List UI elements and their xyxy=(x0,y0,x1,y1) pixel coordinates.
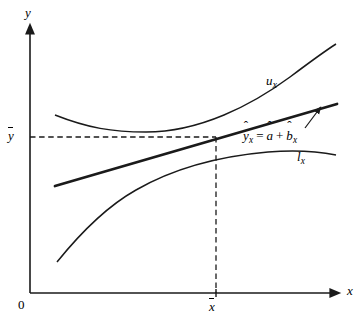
lower-curve-label: lx xyxy=(297,150,305,166)
figure-canvas xyxy=(0,0,362,321)
y-axis-label: y xyxy=(25,6,31,19)
ahat-glyph: a xyxy=(266,129,273,142)
equals-sign: = xyxy=(256,128,263,143)
lower-curve-subscript: x xyxy=(301,156,305,166)
upper-confidence-curve xyxy=(55,44,336,132)
x-mean-label: x xyxy=(209,300,215,313)
plus-sign: + xyxy=(276,128,283,143)
upper-curve-letter: u xyxy=(266,73,273,88)
regression-line xyxy=(55,104,337,186)
bhat-glyph: b xyxy=(286,129,293,142)
bhat-subscript: x xyxy=(293,135,297,145)
y-mean-glyph: y xyxy=(8,129,14,142)
regression-equation-label: yx=a+bx xyxy=(243,129,297,145)
upper-curve-subscript: x xyxy=(273,80,277,90)
regression-confidence-band-figure: y x 0 y x ux lx yx=a+bx xyxy=(0,0,362,321)
x-mean-glyph: x xyxy=(209,300,215,313)
yhat-glyph: y xyxy=(243,129,249,142)
y-mean-label: y xyxy=(8,129,14,142)
x-axis-label: x xyxy=(347,284,353,297)
equation-pointer-arrow-icon xyxy=(305,112,317,128)
yhat-subscript: x xyxy=(249,135,253,145)
upper-curve-label: ux xyxy=(266,74,277,90)
origin-label: 0 xyxy=(18,298,25,311)
lower-confidence-curve xyxy=(57,151,336,262)
